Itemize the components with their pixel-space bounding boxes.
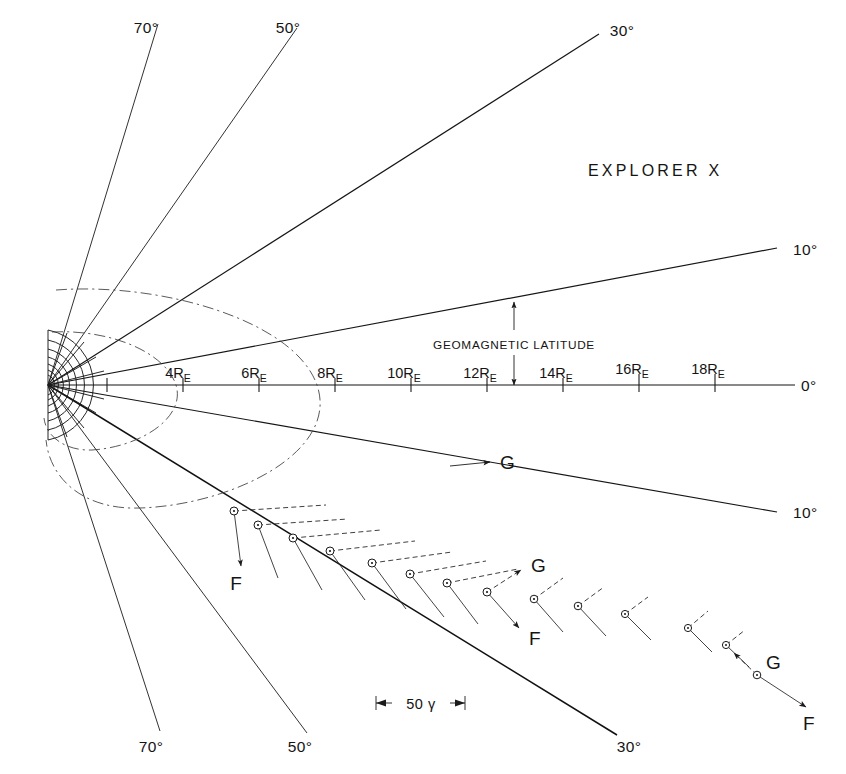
figure-root: EXPLORER X xyxy=(0,0,846,774)
f-label-1: F xyxy=(230,573,242,594)
data-point-5-center xyxy=(371,562,373,564)
angle-label-right-0: 0° xyxy=(801,377,817,394)
data-point-7-center xyxy=(446,582,448,584)
page-title: EXPLORER X xyxy=(588,162,722,179)
data-point-14-center xyxy=(756,674,758,676)
data-point-4-center xyxy=(329,550,331,552)
angle-label-top-70: 70° xyxy=(134,19,159,36)
data-point-11-center xyxy=(624,613,626,615)
angle-label-right-10-lower: 10° xyxy=(793,504,818,521)
data-point-13-center xyxy=(725,644,727,646)
angle-label-top-30: 30° xyxy=(610,22,635,39)
f-label-8: F xyxy=(529,628,541,649)
data-point-8-center xyxy=(486,591,488,593)
data-point-12-center xyxy=(687,627,689,629)
data-point-9-center xyxy=(533,598,535,600)
angle-label-bottom-70: 70° xyxy=(139,738,164,755)
explorer-x-figure: EXPLORER X xyxy=(0,0,846,774)
g-label-8: G xyxy=(531,555,546,576)
data-point-2-center xyxy=(257,524,259,526)
f-label-14: F xyxy=(803,713,815,734)
angle-label-bottom-50: 50° xyxy=(288,738,313,755)
scale-bar-label: 50 γ xyxy=(406,696,436,712)
latitude-annotation-label: GEOMAGNETIC LATITUDE xyxy=(433,338,595,352)
angle-label-top-50: 50° xyxy=(276,19,301,36)
data-point-1-center xyxy=(233,510,235,512)
figure-background xyxy=(0,0,846,774)
data-point-3-center xyxy=(292,537,294,539)
upper-g-label: G xyxy=(500,452,515,473)
g-label-14: G xyxy=(766,652,781,673)
data-point-10-center xyxy=(577,605,579,607)
angle-label-right-10-upper: 10° xyxy=(793,241,818,258)
data-point-6-center xyxy=(409,573,411,575)
angle-label-bottom-30: 30° xyxy=(617,738,642,755)
